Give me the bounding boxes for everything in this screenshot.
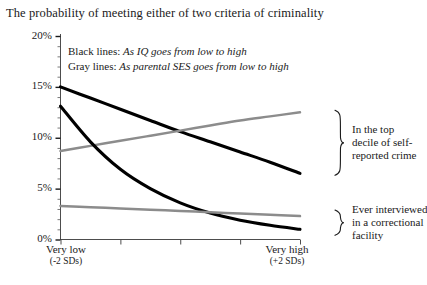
x-axis-label-very-high-text: Very high — [265, 243, 308, 255]
legend-black-lead: Black lines: — [68, 45, 120, 57]
legend-item-gray: Gray lines: As parental SES goes from lo… — [68, 59, 289, 74]
annotation-top-line3: reported crime — [352, 149, 416, 162]
x-axis-label-very-high: Very high (+2 SDs) — [247, 243, 327, 267]
legend-black-desc: As IQ goes from low to high — [123, 45, 247, 57]
legend-item-black: Black lines: As IQ goes from low to high — [68, 44, 289, 59]
annotation-top-line1: In the top — [352, 123, 416, 136]
x-axis-label-very-low-sub: (-2 SDs) — [28, 256, 104, 267]
x-axis-label-very-low-text: Very low — [46, 243, 86, 255]
brace-top-decile — [335, 110, 344, 175]
x-axis-label-very-high-sub: (+2 SDs) — [247, 256, 327, 267]
y-tick-label-5: 5% — [18, 181, 52, 193]
annotation-correctional: Ever interviewed in a correctional facil… — [352, 203, 427, 243]
chart-line-3 — [61, 206, 301, 216]
annotation-bottom-line2: in a correctional — [352, 216, 427, 229]
brace-correctional — [335, 210, 344, 235]
legend-gray-lead: Gray lines: — [68, 60, 117, 72]
y-tick-label-15: 15% — [18, 79, 52, 91]
y-tick-label-20: 20% — [18, 29, 52, 41]
legend-gray-desc: As parental SES goes from low to high — [119, 60, 288, 72]
annotation-bottom-line1: Ever interviewed — [352, 203, 427, 216]
chart-legend: Black lines: As IQ goes from low to high… — [68, 44, 289, 73]
annotation-bottom-line3: facility — [352, 229, 427, 242]
chart-line-1 — [61, 112, 301, 151]
x-axis-label-very-low: Very low (-2 SDs) — [28, 243, 104, 267]
annotation-top-decile: In the top decile of self- reported crim… — [352, 123, 416, 163]
chart-series-group — [61, 87, 301, 229]
annotation-top-line2: decile of self- — [352, 136, 416, 149]
y-tick-label-10: 10% — [18, 130, 52, 142]
